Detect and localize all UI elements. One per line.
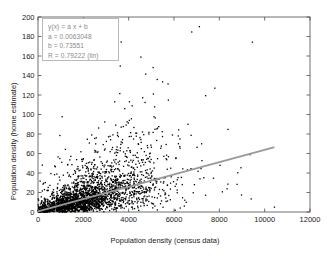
svg-text:4000: 4000	[120, 215, 137, 224]
svg-text:140: 140	[22, 71, 35, 80]
y-axis-label: Population density (home estimate)	[9, 82, 18, 200]
svg-text:200: 200	[22, 13, 35, 22]
svg-text:6000: 6000	[166, 215, 183, 224]
svg-text:160: 160	[22, 52, 35, 61]
x-axis-label: Population density (census data)	[0, 236, 330, 245]
svg-text:12000: 12000	[300, 215, 321, 224]
svg-text:80: 80	[26, 130, 34, 139]
svg-text:20: 20	[26, 188, 34, 197]
svg-text:40: 40	[26, 169, 34, 178]
x-axis-tick-labels: 020004000600080001000012000	[36, 215, 321, 224]
legend-equation: y(x) = a x + b	[48, 22, 118, 32]
svg-text:0: 0	[30, 208, 34, 217]
svg-text:10000: 10000	[254, 215, 275, 224]
svg-text:120: 120	[22, 91, 35, 100]
y-axis-tick-labels: 020406080100120140160180200	[22, 13, 35, 217]
svg-text:180: 180	[22, 32, 35, 41]
svg-text:2000: 2000	[75, 215, 92, 224]
legend-coeff-a: a = 0.0063048	[48, 32, 118, 42]
figure: 020004000600080001000012000 020406080100…	[0, 0, 330, 256]
svg-text:8000: 8000	[211, 215, 228, 224]
legend-coeff-b: b = 0.73551	[48, 41, 118, 51]
svg-text:0: 0	[36, 215, 40, 224]
svg-text:100: 100	[22, 110, 35, 119]
svg-text:60: 60	[26, 149, 34, 158]
fit-legend: y(x) = a x + b a = 0.0063048 b = 0.73551…	[42, 18, 119, 61]
legend-r-value: R = 0.79222 (lin)	[48, 51, 118, 61]
